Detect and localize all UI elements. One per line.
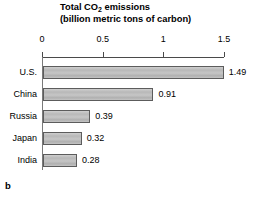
x-tick-mark <box>163 52 164 57</box>
bar-value-label: 0.32 <box>87 133 105 143</box>
chart-title-line-2: (billion metric tons of carbon) <box>60 14 260 26</box>
bar-row: 0.32 <box>42 132 224 145</box>
x-axis-tick-labels: 00.511.5 <box>0 34 267 47</box>
bar <box>43 88 153 101</box>
chart-title-part-1: Total CO <box>60 2 98 12</box>
category-label: Russia <box>9 111 37 121</box>
bar-value-label: 0.39 <box>95 111 113 121</box>
category-label: U.S. <box>19 67 37 77</box>
bar <box>43 132 82 145</box>
chart-title-part-2: emissions <box>102 2 150 12</box>
bar-value-label: 1.49 <box>229 67 247 77</box>
x-tick-mark <box>103 52 104 57</box>
bar <box>43 154 77 167</box>
bar <box>43 110 90 123</box>
plot-area: 1.490.910.390.320.28 <box>42 52 224 170</box>
bar-value-label: 0.91 <box>158 89 176 99</box>
bar-row: 1.49 <box>42 66 224 79</box>
category-label: China <box>13 89 37 99</box>
bar-row: 0.91 <box>42 88 224 101</box>
bar-row: 0.28 <box>42 154 224 167</box>
x-tick-label: 1.5 <box>218 34 231 44</box>
bar-row: 0.39 <box>42 110 224 123</box>
chart-title: Total CO2 emissions (billion metric tons… <box>60 2 260 25</box>
x-tick-mark <box>224 52 225 57</box>
x-axis-line <box>42 57 224 58</box>
panel-letter: b <box>5 180 11 191</box>
chart-title-line-1: Total CO2 emissions <box>60 2 260 14</box>
x-tick-label: 1 <box>161 34 166 44</box>
bar <box>43 66 224 79</box>
category-label: Japan <box>12 133 37 143</box>
x-tick-label: 0 <box>39 34 44 44</box>
x-tick-mark <box>42 52 43 57</box>
x-tick-label: 0.5 <box>96 34 109 44</box>
category-axis-labels: U.S.ChinaRussiaJapanIndia <box>0 52 40 170</box>
bar-value-label: 0.28 <box>82 155 100 165</box>
chart-title-subscript: 2 <box>98 6 102 13</box>
category-label: India <box>17 155 37 165</box>
chart-figure: Total CO2 emissions (billion metric tons… <box>0 0 267 198</box>
